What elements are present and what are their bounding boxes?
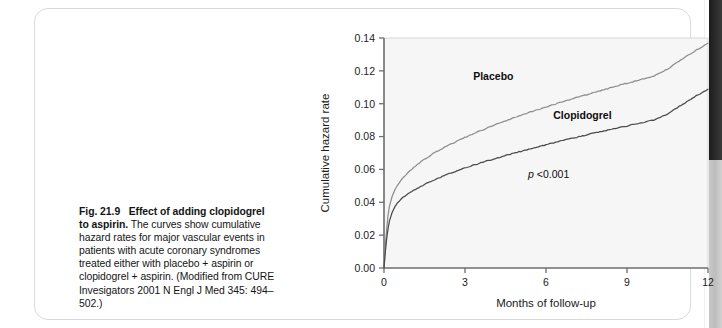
chart-svg: 0.000.020.040.060.080.100.120.14036912Mo… (307, 25, 717, 315)
x-tick-label: 3 (462, 276, 468, 288)
series-label-clopidogrel: Clopidogrel (553, 109, 611, 121)
y-tick-label: 0.06 (355, 163, 376, 175)
y-tick-label: 0.14 (355, 32, 376, 44)
figure-caption-body: The curves show cumulative hazard rates … (79, 219, 274, 309)
y-tick-label: 0.10 (355, 98, 376, 110)
x-tick-label: 0 (381, 276, 387, 288)
annotation-p-value: p <0.001 (527, 168, 569, 180)
y-tick-label: 0.04 (355, 196, 376, 208)
y-tick-label: 0.12 (355, 65, 376, 77)
y-tick-label: 0.08 (355, 130, 376, 142)
x-axis-title: Months of follow-up (496, 297, 596, 309)
x-tick-label: 12 (702, 276, 714, 288)
y-tick-label: 0.00 (355, 262, 376, 274)
series-label-placebo: Placebo (473, 70, 513, 82)
y-axis-title: Cumulative hazard rate (319, 94, 331, 213)
annotation-p-value: <0.001 (534, 168, 569, 180)
hazard-rate-chart: 0.000.020.040.060.080.100.120.14036912Mo… (307, 25, 717, 315)
figure-card: Fig. 21.9 Effect of adding clopidogrel t… (34, 8, 691, 320)
figure-number: Fig. 21.9 (79, 206, 120, 217)
figure-caption: Fig. 21.9 Effect of adding clopidogrel t… (79, 205, 275, 310)
x-tick-label: 6 (543, 276, 549, 288)
x-tick-label: 9 (624, 276, 630, 288)
y-tick-label: 0.02 (355, 229, 376, 241)
